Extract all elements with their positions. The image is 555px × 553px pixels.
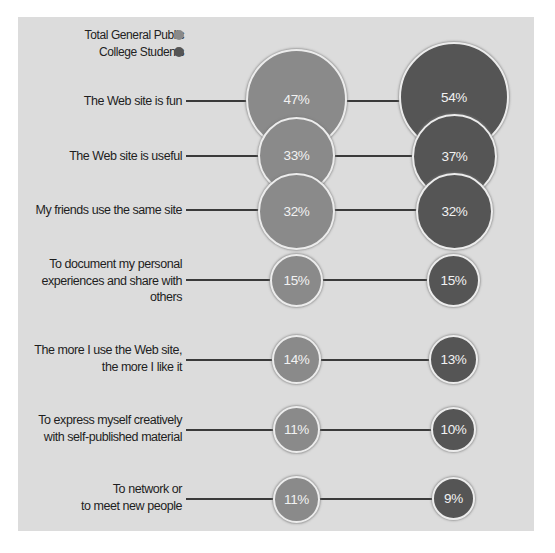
bubble-students: 10% xyxy=(431,407,476,452)
label-line: To express myself creatively xyxy=(38,412,182,429)
bubble-students: 15% xyxy=(427,254,480,307)
label-line: The Web site is useful xyxy=(69,148,182,165)
bubble-public: 15% xyxy=(270,254,323,307)
bubble-students: 13% xyxy=(429,335,478,384)
bubble-students: 9% xyxy=(432,477,475,520)
row-label: To express myself creatively with self-p… xyxy=(38,412,182,445)
legend-label-public: Total General Public xyxy=(85,28,184,42)
label-line: To network or xyxy=(81,481,182,498)
legend-item-students: College Students xyxy=(99,45,184,59)
row-label: To document my personal experiences and … xyxy=(42,256,182,306)
label-line: To document my personal xyxy=(42,256,182,273)
bubble-public: 11% xyxy=(273,476,320,523)
bubble-public: 32% xyxy=(258,173,335,250)
bubble-students: 32% xyxy=(416,173,493,250)
label-line: to meet new people xyxy=(81,497,182,514)
label-line: with self-published material xyxy=(38,428,182,445)
label-line: experiences and share with xyxy=(42,273,182,290)
row-label: The Web site is useful xyxy=(69,148,182,165)
legend-label-students: College Students xyxy=(99,45,184,59)
row-label: My friends use the same site xyxy=(36,202,183,219)
row-label: The more I use the Web site, the more I … xyxy=(34,342,182,375)
bubble-public: 14% xyxy=(272,335,321,384)
row-label: To network or to meet new people xyxy=(81,481,182,514)
label-line: The more I use the Web site, xyxy=(34,342,182,359)
legend-dot-students-icon xyxy=(174,47,184,57)
label-line: others xyxy=(42,289,182,306)
legend-dot-public-icon xyxy=(174,30,184,40)
label-line: The Web site is fun xyxy=(84,93,182,110)
bubble-public: 11% xyxy=(273,406,320,453)
label-line: the more I like it xyxy=(34,358,182,375)
label-line: My friends use the same site xyxy=(36,202,183,219)
row-label: The Web site is fun xyxy=(84,93,182,110)
legend-item-public: Total General Public xyxy=(85,28,184,42)
